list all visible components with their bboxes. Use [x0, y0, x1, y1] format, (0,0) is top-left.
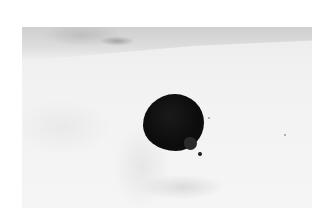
balloon-gondola: [198, 152, 202, 156]
page-frame: [0, 0, 333, 224]
balloon-photograph: [22, 27, 312, 208]
sky-speck: [208, 117, 210, 119]
balloon-neck: [184, 137, 197, 150]
sky-speck: [284, 134, 286, 136]
